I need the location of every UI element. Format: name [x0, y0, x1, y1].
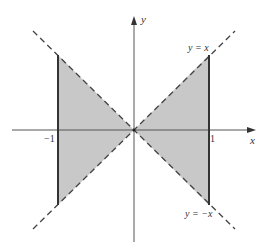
line-label-y-equals-neg-x: y = −x — [185, 209, 212, 219]
y-axis-label: y — [141, 14, 146, 25]
tick-label-neg1: −1 — [44, 134, 55, 144]
y-axis-arrow-icon — [131, 16, 137, 25]
tick-label-pos1: 1 — [210, 134, 215, 144]
x-axis-label: x — [250, 135, 255, 146]
line-label-y-equals-x: y = x — [188, 43, 209, 53]
diagram-canvas — [0, 0, 269, 248]
x-axis-arrow-icon — [247, 127, 256, 133]
origin-point — [133, 129, 136, 132]
bowtie-region-diagram: y x −1 1 y = x y = −x — [0, 0, 269, 248]
